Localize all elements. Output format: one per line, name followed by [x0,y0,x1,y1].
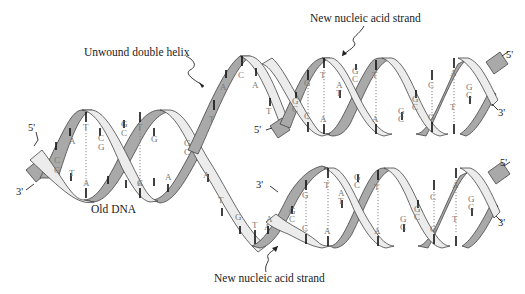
base-label: C [352,74,358,84]
base-label: C [302,223,308,233]
three-prime-label-bottom-right: 3' [498,217,505,228]
base-label: T [338,196,344,206]
five-prime-label-left: 5' [28,122,35,133]
three-prime-label-bottom-inner: 3' [256,179,263,190]
arrow-icon [272,246,278,252]
base-label: T [452,214,458,224]
new-strand-label-top: New nucleic acid strand [310,12,421,24]
base-label: A [165,172,172,182]
base-label: C [466,90,472,100]
base-label: C [304,111,310,121]
base-label: A [372,114,379,124]
base-label: T [336,88,342,98]
base-label: A [450,68,457,78]
base-label: A [69,136,76,146]
top-new-helix: G C G C T A A T G C T A G C G C C G A T … [262,52,508,138]
base-label: T [252,220,258,230]
base-label: C [414,212,420,222]
base-label: C [398,114,404,124]
base-label: G [430,224,437,234]
arrow-icon [199,82,204,88]
base-label: T [83,122,89,132]
three-prime-label-left: 3' [16,186,23,197]
base-label: T [372,70,378,80]
base-label: C [430,192,436,202]
base-label: C [412,102,418,112]
new-strand-label-bottom: New nucleic acid strand [214,272,325,284]
base-label: A [252,80,259,90]
new-strand-top-leader [342,26,364,56]
base-label: C [292,104,298,114]
base-label: T [218,195,224,205]
five-prime-label-top-right: 5' [506,49,513,60]
base-label: T [324,180,330,190]
bottom-new-helix: A G C G C T A A T G C T A G C G C C G A … [252,162,510,248]
base-label: C [54,155,60,165]
base-label: A [452,180,459,190]
base-label: G [151,134,158,144]
base-label: C [354,180,360,190]
base-label: T [69,168,75,178]
base-label: T [374,182,380,192]
base-label: A [203,170,210,180]
base-label: C [289,214,295,224]
base-label: T [137,122,143,132]
arrow-icon [342,50,347,56]
base-label: A [266,214,273,224]
base-label: G [428,112,435,122]
base-label: G [304,78,311,88]
base-label: C [238,70,244,80]
old-dna-helix: C G A T T A C G G C T A G C A G C [26,110,266,252]
base-label: A [374,226,381,236]
base-label: G [54,165,61,175]
unwound-leader-line [186,56,204,86]
five-prime-label-bottom-right: 5' [500,157,507,168]
base-label: C [400,222,406,232]
five-prime-label-top-inner: 5' [254,124,261,135]
three-prime-label-top-right: 3' [498,107,505,118]
base-label: T [320,70,326,80]
base-label: C [468,202,474,212]
base-label: G [235,212,242,222]
base-label: T [209,114,215,124]
base-label: C [121,128,127,138]
base-label: A [320,114,327,124]
base-label: T [266,106,272,116]
base-label: C [137,178,143,188]
base-label: T [450,102,456,112]
unwound-double-helix-label: Unwound double helix [84,46,190,58]
base-label: G [302,190,309,200]
base-label: A [324,226,331,236]
old-dna-label: Old DNA [91,203,137,215]
base-label: G [98,142,105,152]
base-label: A [220,82,227,92]
dna-replication-diagram: C G A T T A C G G C T A G C A G C T A C … [0,0,525,294]
base-label: C [428,80,434,90]
base-label: A [83,178,90,188]
